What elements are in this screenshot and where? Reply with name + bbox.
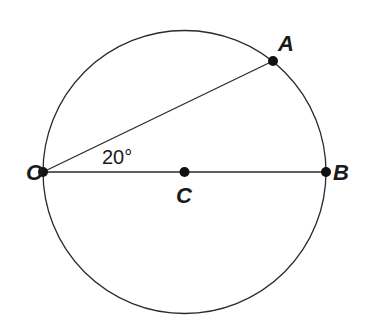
angle-label: 20° <box>102 146 132 168</box>
chord-oa <box>43 61 273 172</box>
label-o: O <box>26 160 43 185</box>
point-a <box>268 56 278 66</box>
point-b <box>321 167 331 177</box>
point-c-center <box>180 167 190 177</box>
label-c: C <box>176 183 193 208</box>
label-a: A <box>277 31 294 56</box>
label-b: B <box>333 160 349 185</box>
circle-diagram: O A B C 20° <box>0 0 369 329</box>
